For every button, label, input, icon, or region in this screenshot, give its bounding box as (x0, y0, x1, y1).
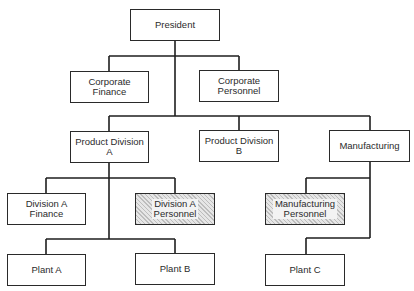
org-chart: President Corporate Finance Corporate Pe… (0, 0, 414, 291)
node-label: Plant C (289, 265, 320, 275)
node-product-division-a: Product Division A (70, 131, 149, 163)
node-division-a-finance: Division A Finance (7, 193, 86, 225)
node-corporate-personnel: Corporate Personnel (199, 70, 279, 102)
node-label: Product Division B (205, 136, 274, 156)
node-manufacturing: Manufacturing (329, 130, 410, 162)
node-label: Plant A (31, 265, 61, 275)
node-product-division-b: Product Division B (199, 130, 279, 162)
node-division-a-personnel: Division A Personnel (135, 193, 215, 225)
node-plant-a: Plant A (7, 254, 86, 286)
node-label: Corporate Personnel (218, 76, 261, 96)
node-label: President (155, 20, 195, 30)
node-manufacturing-personnel: Manufacturing Personnel (265, 193, 345, 225)
node-plant-b: Plant B (135, 253, 215, 285)
node-label: Plant B (160, 264, 191, 274)
node-label: Division A Personnel (152, 199, 199, 219)
node-label: Product Division A (75, 137, 144, 157)
node-label: Manufacturing (339, 141, 399, 151)
node-plant-c: Plant C (265, 254, 345, 286)
node-label: Manufacturing Personnel (273, 199, 337, 219)
node-label: Corporate Finance (88, 77, 130, 97)
node-label: Division A Finance (26, 199, 68, 219)
node-president: President (130, 9, 220, 41)
node-corporate-finance: Corporate Finance (70, 71, 149, 103)
